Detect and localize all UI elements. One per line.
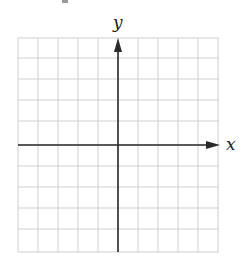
coordinate-plane <box>0 0 240 259</box>
x-axis-label: x <box>226 136 236 153</box>
y-axis-arrow-icon <box>114 38 122 52</box>
x-axis <box>18 141 220 149</box>
y-axis-label: y <box>113 14 123 31</box>
